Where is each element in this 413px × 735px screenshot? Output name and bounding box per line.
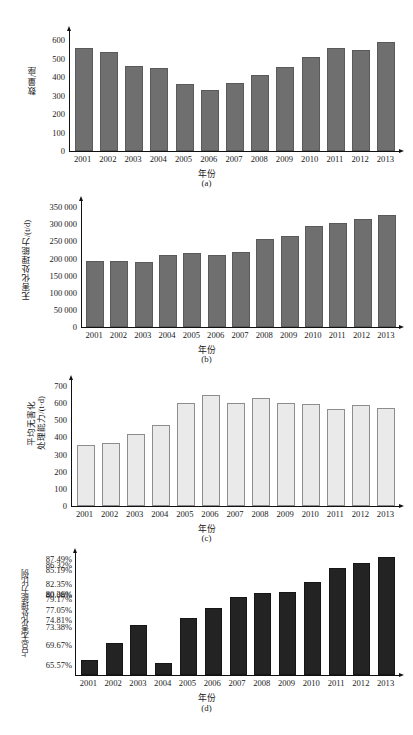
bar-2005 [180, 618, 197, 675]
x-tick-label: 2005 [176, 510, 193, 519]
x-tick-label: 2007 [228, 679, 245, 688]
y-tick-label: 500 [54, 416, 67, 425]
bar-2003 [130, 625, 147, 675]
bar-2012 [353, 563, 370, 675]
bar-series-b [82, 201, 398, 327]
bar-2011 [327, 409, 345, 506]
bar-2011 [329, 223, 347, 327]
bar-2008 [256, 239, 274, 327]
y-tick-label: 700 [54, 382, 67, 391]
bar-2010 [302, 57, 320, 151]
y-axis-ticks-b: 050 000100 000150 000200 000250 000300 0… [32, 183, 77, 366]
bar-2008 [254, 593, 271, 675]
bar-2004 [155, 663, 172, 675]
x-axis-ticks-d: 2001200220032004200520062007200820092010… [76, 679, 398, 691]
bar-series-a [70, 31, 398, 151]
x-axis-ticks-a: 2001200220032004200520062007200820092010… [70, 155, 398, 167]
x-tick-label: 2013 [377, 155, 394, 164]
bar-2010 [302, 404, 320, 506]
bar-2003 [125, 66, 143, 151]
x-tick-label: 2005 [183, 331, 200, 340]
bar-2001 [75, 48, 93, 151]
y-tick-label: 400 [54, 433, 67, 442]
x-tick-label: 2001 [86, 331, 103, 340]
y-tick-label: 100 000 [49, 289, 77, 298]
x-tick-label: 2009 [278, 679, 295, 688]
y-tick-label: 300 [54, 450, 67, 459]
x-tick-label: 2011 [329, 331, 346, 340]
bar-2003 [127, 434, 145, 506]
bar-2009 [277, 403, 295, 506]
y-tick-label: 200 [52, 110, 65, 119]
bar-2001 [77, 445, 95, 506]
x-tick-label: 2003 [124, 155, 141, 164]
bar-2009 [281, 236, 299, 327]
x-tick-label: 2006 [201, 510, 218, 519]
bar-2006 [201, 90, 219, 151]
x-tick-label: 2003 [129, 679, 146, 688]
y-tick-label: 69.67% [46, 641, 72, 650]
y-tick-label: 400 [52, 73, 65, 82]
x-tick-label: 2002 [110, 331, 127, 340]
chart-panel-d: 占总无害化处理能力比例 87.49%86.32%85.19%82.35%80.3… [0, 549, 413, 735]
bar-2011 [329, 568, 346, 675]
panel-caption-c: (c) [0, 533, 413, 543]
bar-2001 [81, 660, 98, 676]
x-tick-label: 2007 [231, 331, 248, 340]
x-tick-label: 2013 [377, 331, 394, 340]
bar-2013 [377, 42, 395, 151]
y-tick-label: 65.57% [46, 661, 72, 670]
y-tick-label: 0 [73, 323, 77, 332]
x-tick-label: 2010 [301, 155, 318, 164]
bar-2009 [276, 67, 294, 151]
bar-2001 [86, 261, 104, 327]
x-tick-label: 2004 [151, 510, 168, 519]
x-tick-label: 2012 [352, 155, 369, 164]
y-tick-label: 50 000 [54, 306, 77, 315]
x-tick-label: 2004 [150, 155, 167, 164]
y-tick-label: 82.35% [46, 580, 72, 589]
x-tick-label: 2008 [251, 510, 268, 519]
y-tick-label: 0 [61, 147, 65, 156]
figure-container: 数量/座 0100200300400500600 200120022003200… [0, 0, 413, 735]
y-tick-label: 300 [52, 91, 65, 100]
x-tick-label: 2003 [126, 510, 143, 519]
x-tick-label: 2002 [105, 679, 122, 688]
y-axis-label-b: 无害化处理能力/(t/d) [23, 205, 32, 315]
bar-2004 [152, 425, 170, 506]
bar-2012 [354, 219, 372, 327]
x-tick-label: 2006 [204, 679, 221, 688]
x-tick-label: 2001 [74, 155, 91, 164]
x-axis-arrow-a [399, 149, 404, 153]
x-tick-label: 2011 [327, 510, 344, 519]
bar-2003 [135, 262, 153, 327]
x-tick-label: 2010 [304, 331, 321, 340]
x-axis-arrow-c [399, 504, 404, 508]
y-tick-label: 85.19% [46, 566, 72, 575]
y-tick-label: 200 [54, 467, 67, 476]
x-tick-label: 2013 [377, 510, 394, 519]
y-tick-label: 600 [52, 36, 65, 45]
x-axis-line-a [69, 151, 399, 152]
x-tick-label: 2008 [251, 155, 268, 164]
bar-2006 [202, 395, 220, 506]
x-axis-arrow-b [399, 325, 404, 329]
y-tick-label: 350 000 [49, 203, 77, 212]
y-tick-label: 100 [54, 485, 67, 494]
x-tick-label: 2002 [99, 155, 116, 164]
bar-2013 [378, 557, 395, 675]
panel-caption-d: (d) [0, 703, 413, 713]
bar-2002 [102, 443, 120, 506]
x-tick-label: 2006 [207, 331, 224, 340]
x-tick-label: 2011 [326, 155, 343, 164]
bar-2007 [232, 252, 250, 327]
x-tick-label: 2008 [256, 331, 273, 340]
x-axis-arrow-d [399, 673, 404, 677]
bar-2010 [304, 582, 321, 675]
y-tick-label: 79.17% [46, 595, 72, 604]
x-tick-label: 2006 [200, 155, 217, 164]
y-tick-label: 200 000 [49, 254, 77, 263]
chart-panel-b: 无害化处理能力/(t/d) 050 000100 000150 000200 0… [0, 183, 413, 366]
bar-2005 [183, 253, 201, 327]
bar-series-d [76, 552, 398, 675]
